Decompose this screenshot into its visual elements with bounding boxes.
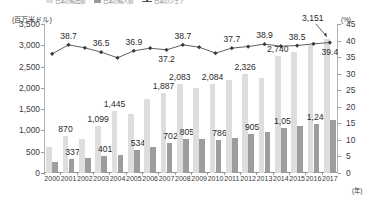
left-axis-tick: 3,000 bbox=[4, 40, 40, 50]
callout-arrow-icon bbox=[44, 24, 338, 173]
right-axis-tick: 25 bbox=[346, 85, 355, 95]
legend-line-marker-icon bbox=[142, 0, 152, 3]
legend-item-exports: 日本の輸出額 bbox=[46, 0, 85, 5]
x-axis-tick: 2013 bbox=[257, 175, 273, 182]
left-axis-tick: 500 bbox=[4, 147, 40, 157]
chart-legend: 日本の輸出額 日本の輸入額 日本のシェア bbox=[46, 0, 184, 6]
x-axis-tick: 2006 bbox=[142, 175, 158, 182]
right-axis-tick: 20 bbox=[346, 102, 355, 112]
x-axis-tick: 2012 bbox=[240, 175, 256, 182]
legend-label-exports: 日本の輸出額 bbox=[55, 0, 85, 5]
right-axis-tick-mark bbox=[338, 123, 341, 124]
x-axis-tick: 2004 bbox=[110, 175, 126, 182]
x-axis-tick: 2016 bbox=[306, 175, 322, 182]
legend-label-share: 日本のシェア bbox=[154, 0, 184, 5]
left-axis-tick: 1,000 bbox=[4, 125, 40, 135]
right-axis-tick: 5 bbox=[346, 151, 351, 161]
right-axis-tick-mark bbox=[338, 173, 341, 174]
x-axis-tick: 2011 bbox=[224, 175, 239, 182]
right-axis-tick: 30 bbox=[346, 69, 355, 79]
x-axis-tick: 2005 bbox=[126, 175, 142, 182]
legend-item-imports: 日本の輸入額 bbox=[94, 0, 133, 5]
right-axis-tick-mark bbox=[338, 107, 341, 108]
legend-label-imports: 日本の輸入額 bbox=[103, 0, 133, 5]
x-axis-tick: 2017 bbox=[322, 175, 338, 182]
right-axis-tick: 15 bbox=[346, 118, 355, 128]
x-axis-tick: 2009 bbox=[191, 175, 207, 182]
left-axis-tick: 2,000 bbox=[4, 83, 40, 93]
x-axis-tick: 2007 bbox=[159, 175, 175, 182]
x-axis-tick: 2001 bbox=[61, 175, 77, 182]
x-axis-tick: 2014 bbox=[273, 175, 289, 182]
x-axis-tick: 2008 bbox=[175, 175, 191, 182]
right-axis-tick-mark bbox=[338, 156, 341, 157]
left-axis-tick: 3,500 bbox=[4, 19, 40, 29]
x-axis-tick: 2010 bbox=[208, 175, 224, 182]
right-axis-tick: 40 bbox=[346, 36, 355, 46]
right-axis-tick-mark bbox=[338, 24, 341, 25]
chart-container: 日本の輸出額 日本の輸入額 日本のシェア (百万米ドル) (%) (年) 3,5… bbox=[0, 0, 380, 200]
legend-swatch-dark-icon bbox=[94, 0, 101, 3]
right-axis-tick-mark bbox=[338, 41, 341, 42]
left-axis-tick: 2,500 bbox=[4, 62, 40, 72]
legend-item-share: 日本のシェア bbox=[142, 0, 184, 5]
legend-swatch-light-icon bbox=[46, 0, 53, 3]
left-axis-tick: 0 bbox=[4, 168, 40, 178]
x-axis-tick: 2000 bbox=[44, 175, 60, 182]
right-axis-tick: 35 bbox=[346, 52, 355, 62]
right-axis-tick-mark bbox=[338, 57, 341, 58]
right-axis-tick-mark bbox=[338, 74, 341, 75]
x-axis-tick: 2015 bbox=[289, 175, 305, 182]
plot-area: 3,5003,0002,5002,0001,5001,0005000 45403… bbox=[44, 24, 338, 173]
right-axis-tick: 0 bbox=[346, 168, 351, 178]
right-axis-tick-mark bbox=[338, 90, 341, 91]
x-axis-unit-label: (年) bbox=[352, 186, 362, 195]
right-axis-tick-mark bbox=[338, 140, 341, 141]
x-axis-tick: 2002 bbox=[77, 175, 93, 182]
callout-label: 3,151 bbox=[302, 13, 324, 23]
x-axis-tick: 2003 bbox=[93, 175, 109, 182]
right-axis-tick: 45 bbox=[346, 19, 355, 29]
left-axis-tick: 1,500 bbox=[4, 104, 40, 114]
right-axis-tick: 10 bbox=[346, 135, 355, 145]
